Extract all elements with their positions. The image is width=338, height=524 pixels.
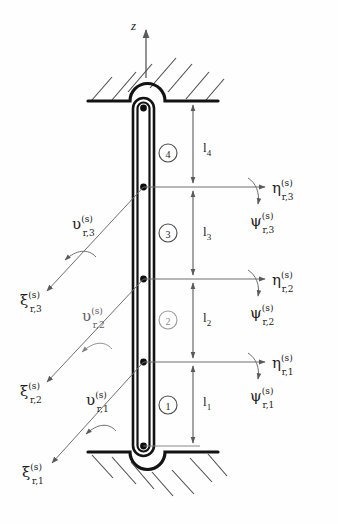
segment-badge-2-label: 2 xyxy=(166,316,171,327)
node-dot-top xyxy=(140,105,147,112)
z-axis-label: z xyxy=(130,18,136,33)
flexible-rod xyxy=(133,98,154,456)
segment-badge-4-label: 4 xyxy=(166,149,171,160)
segment-badge-1-label: 1 xyxy=(166,401,171,412)
beam-segment-diagram: z xyxy=(0,0,338,524)
canvas-background xyxy=(0,0,338,524)
segment-badge-3-label: 3 xyxy=(166,229,171,240)
figure-canvas: z xyxy=(0,0,338,524)
